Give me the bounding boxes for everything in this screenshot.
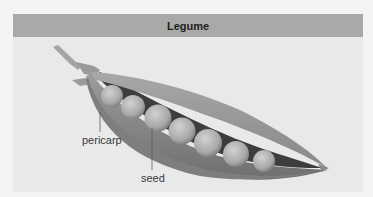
seed-label: seed <box>141 172 165 184</box>
pea-pod-illustration <box>0 0 373 197</box>
pericarp-label: pericarp <box>82 134 122 146</box>
